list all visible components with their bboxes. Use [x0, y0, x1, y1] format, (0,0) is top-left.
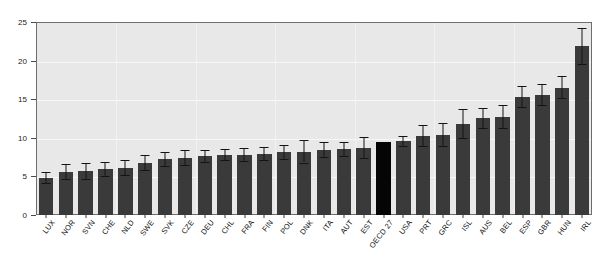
error-bar-line — [65, 164, 66, 179]
error-bar-cap-upper — [200, 150, 209, 151]
error-bar-cap-lower — [200, 162, 209, 163]
bar-ita — [317, 150, 331, 215]
error-bar-cap-lower — [518, 107, 527, 108]
x-axis-tick-mark — [383, 215, 384, 218]
error-bar-cap-upper — [538, 84, 547, 85]
error-bar-line — [522, 86, 523, 107]
x-axis-tick-mark — [582, 215, 583, 218]
x-axis-label-svk: SVK — [159, 218, 176, 236]
error-bar-cap-lower — [180, 165, 189, 166]
x-axis-tick-mark — [542, 215, 543, 218]
x-axis-tick-mark — [284, 215, 285, 218]
x-axis-label-pol: POL — [279, 218, 296, 236]
error-bar-line — [343, 142, 344, 157]
error-bar-cap-upper — [161, 152, 170, 153]
y-axis-tick-label: 10 — [18, 133, 27, 142]
bar-oecd-27 — [376, 142, 390, 215]
x-axis-tick-mark — [184, 215, 185, 218]
error-bar-line — [145, 155, 146, 170]
x-axis-tick-mark — [264, 215, 265, 218]
bar-group — [237, 22, 251, 215]
x-axis-tick-mark — [363, 215, 364, 218]
error-bar-line — [224, 149, 225, 160]
bar-group — [178, 22, 192, 215]
bar-irl — [575, 46, 589, 215]
error-bar-cap-lower — [478, 128, 487, 129]
error-bar-cap-upper — [121, 160, 130, 161]
error-bar-cap-upper — [399, 136, 408, 137]
error-bar-line — [204, 150, 205, 162]
error-bar-cap-upper — [578, 28, 587, 29]
bar-group — [39, 22, 53, 215]
x-axis-label-est: EST — [358, 218, 374, 236]
bar-deu — [198, 156, 212, 215]
y-axis-tick-label: 25 — [18, 18, 27, 27]
error-bar-line — [45, 172, 46, 184]
bar-group — [436, 22, 450, 215]
bar-group — [198, 22, 212, 215]
error-bar-cap-upper — [518, 86, 527, 87]
bar-group — [356, 22, 370, 215]
bar-usa — [396, 141, 410, 215]
x-axis-label-usa: USA — [397, 218, 414, 236]
bars-layer — [36, 22, 592, 215]
x-axis-label-swe: SWE — [138, 218, 156, 237]
y-axis: 0510152025 — [0, 0, 36, 278]
error-bar-cap-upper — [61, 164, 70, 165]
x-axis-label-deu: DEU — [199, 218, 216, 236]
bar-group — [495, 22, 509, 215]
error-bar-cap-lower — [141, 170, 150, 171]
error-bar-line — [582, 28, 583, 64]
error-bar-line — [443, 123, 444, 145]
x-axis-label-gbr: GBR — [536, 218, 553, 237]
bar-group — [535, 22, 549, 215]
x-axis-label-isl: ISL — [460, 218, 474, 233]
error-bar-cap-upper — [180, 150, 189, 151]
bar-bel — [495, 117, 509, 215]
error-bar-line — [284, 145, 285, 159]
x-axis-label-esp: ESP — [517, 218, 534, 236]
x-axis-label-irl: IRL — [579, 218, 594, 233]
bar-group — [297, 22, 311, 215]
error-bar-cap-upper — [498, 105, 507, 106]
bar-chart: 0510152025 LUXNORSVNCHENLDSWESVKCZEDEUCH… — [0, 0, 608, 278]
error-bar-cap-lower — [300, 163, 309, 164]
bar-group — [98, 22, 112, 215]
x-axis-tick-mark — [462, 215, 463, 218]
error-bar-line — [264, 147, 265, 160]
x-axis-tick-mark — [145, 215, 146, 218]
error-bar-cap-lower — [220, 160, 229, 161]
bar-group — [78, 22, 92, 215]
x-axis-label-dnk: DNK — [298, 218, 315, 236]
x-axis-label-nld: NLD — [120, 218, 137, 236]
x-axis-tick-mark — [244, 215, 245, 218]
x-axis-tick-mark — [482, 215, 483, 218]
y-axis-tick-label: 5 — [22, 172, 27, 181]
x-axis-tick-mark — [343, 215, 344, 218]
error-bar-cap-upper — [280, 145, 289, 146]
error-bar-cap-lower — [558, 98, 567, 99]
bar-group — [555, 22, 569, 215]
error-bar-cap-lower — [121, 175, 130, 176]
error-bar-cap-upper — [458, 109, 467, 110]
error-bar-line — [165, 152, 166, 167]
x-axis-label-prt: PRT — [418, 218, 435, 236]
error-bar-cap-upper — [41, 172, 50, 173]
error-bar-line — [304, 140, 305, 162]
x-axis-tick-mark — [65, 215, 66, 218]
x-axis-label-nor: NOR — [59, 218, 77, 237]
error-bar-cap-upper — [260, 147, 269, 148]
bar-svk — [158, 159, 172, 215]
bar-group — [376, 22, 390, 215]
error-bar-cap-lower — [339, 156, 348, 157]
error-bar-cap-lower — [458, 138, 467, 139]
bar-group — [59, 22, 73, 215]
x-axis-tick-mark — [403, 215, 404, 218]
x-axis-tick-mark — [224, 215, 225, 218]
error-bar-cap-upper — [81, 163, 90, 164]
bar-aus — [476, 118, 490, 215]
error-bar-line — [562, 76, 563, 98]
bar-chl — [217, 155, 231, 215]
y-axis-tick-label: 15 — [18, 95, 27, 104]
error-bar-cap-lower — [240, 161, 249, 162]
